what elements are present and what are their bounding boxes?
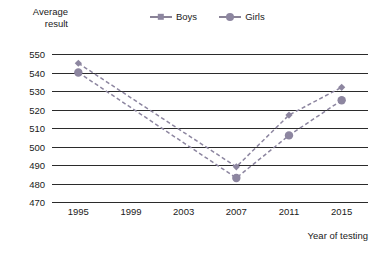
plot-area: 550540530520510500490480470 bbox=[52, 54, 368, 202]
y-axis-tick-label: 550 bbox=[29, 49, 45, 60]
legend-label-girls: Girls bbox=[245, 11, 265, 22]
legend-item-boys: Boys bbox=[150, 11, 197, 22]
y-axis-tick-label: 530 bbox=[29, 86, 45, 97]
y-axis-title-line-2: result bbox=[6, 18, 68, 30]
legend-marker-diamond-icon bbox=[150, 11, 172, 22]
data-point-circle-marker bbox=[285, 131, 293, 139]
y-axis-tick-label: 470 bbox=[29, 197, 45, 208]
y-axis-tick-label: 490 bbox=[29, 160, 45, 171]
y-axis-tick-label: 500 bbox=[29, 141, 45, 152]
chart-legend: Boys Girls bbox=[150, 11, 265, 22]
x-axis-tick-label: 2003 bbox=[173, 206, 194, 217]
legend-label-boys: Boys bbox=[176, 11, 197, 22]
x-axis-tick-label: 1999 bbox=[120, 206, 141, 217]
y-axis-title-line-1: Average bbox=[6, 6, 68, 18]
y-axis-tick-label: 480 bbox=[29, 178, 45, 189]
x-axis-tick-label: 2015 bbox=[331, 206, 352, 217]
data-point-circle-marker bbox=[337, 96, 345, 104]
legend-item-girls: Girls bbox=[219, 11, 265, 22]
x-axis-title: Year of testing bbox=[308, 230, 368, 241]
data-point-circle-marker bbox=[232, 174, 240, 182]
diamond-marker-icon bbox=[158, 13, 164, 19]
data-point-circle-marker bbox=[74, 68, 82, 76]
x-axis-tick-labels: 199519992003200720112015 bbox=[52, 206, 368, 220]
gridline: 470 bbox=[52, 202, 368, 203]
y-axis-tick-label: 540 bbox=[29, 67, 45, 78]
x-axis-tick-label: 2007 bbox=[226, 206, 247, 217]
y-axis-tick-label: 510 bbox=[29, 123, 45, 134]
circle-marker-icon bbox=[226, 13, 234, 21]
x-axis-tick-label: 1995 bbox=[68, 206, 89, 217]
series-layer bbox=[52, 54, 368, 202]
chart-screenshot: Average result Boys Girls 55054053052051… bbox=[0, 0, 380, 257]
data-point-diamond-marker bbox=[338, 84, 345, 91]
series-line-boys bbox=[78, 63, 341, 167]
y-axis-tick-label: 520 bbox=[29, 104, 45, 115]
x-axis-tick-label: 2011 bbox=[279, 206, 299, 217]
legend-marker-circle-icon bbox=[219, 11, 241, 22]
y-axis-title: Average result bbox=[6, 6, 68, 29]
